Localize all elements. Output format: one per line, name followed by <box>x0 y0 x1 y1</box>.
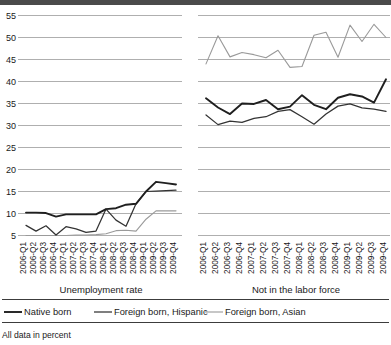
x-tick-label-2007-Q1: 2007-Q1 <box>59 242 68 274</box>
y-tick-label-50: 50 <box>6 33 16 43</box>
x-tick-label-2007-Q3: 2007-Q3 <box>79 242 88 274</box>
x-tick-label-2008-Q3: 2008-Q3 <box>319 242 328 274</box>
legend-label-foreign-born-asian: Foreign born, Asian <box>225 307 306 317</box>
y-tick-label-45: 45 <box>6 55 16 65</box>
x-tick-label-2006-Q3: 2006-Q3 <box>39 242 48 274</box>
x-tick-label-2006-Q2: 2006-Q2 <box>29 242 38 274</box>
chart-page: 510152025303540455055 2006-Q12006-Q22006… <box>0 0 391 345</box>
x-tick-label-2007-Q1: 2007-Q1 <box>247 242 256 274</box>
x-tick-label-2008-Q2: 2008-Q2 <box>307 242 316 274</box>
x-tick-label-2009-Q1: 2009-Q1 <box>139 242 148 274</box>
x-tick-label-2009-Q4: 2009-Q4 <box>379 242 388 274</box>
y-tick-label-20: 20 <box>6 165 16 175</box>
x-tick-label-2008-Q3: 2008-Q3 <box>119 242 128 274</box>
x-tick-label-2007-Q2: 2007-Q2 <box>259 242 268 274</box>
series-line-foreign-born-asian <box>206 24 386 67</box>
x-tick-label-2008-Q4: 2008-Q4 <box>331 242 340 274</box>
x-tick-label-2007-Q2: 2007-Q2 <box>69 242 78 274</box>
x-axis-labels-right: 2006-Q12006-Q22006-Q32006-Q42007-Q12007-… <box>199 242 388 274</box>
x-tick-label-2008-Q2: 2008-Q2 <box>109 242 118 274</box>
legend-label-foreign-born-hispanic: Foreign born, Hispanic <box>114 307 208 317</box>
x-tick-label-2006-Q2: 2006-Q2 <box>211 242 220 274</box>
y-tick-label-10: 10 <box>6 209 16 219</box>
series-lines-left-panel <box>26 182 176 236</box>
x-tick-label-2007-Q4: 2007-Q4 <box>89 242 98 274</box>
x-tick-label-2009-Q3: 2009-Q3 <box>159 242 168 274</box>
x-tick-label-2007-Q4: 2007-Q4 <box>283 242 292 274</box>
y-tick-label-30: 30 <box>6 121 16 131</box>
y-tick-label-55: 55 <box>6 11 16 21</box>
x-tick-label-2008-Q1: 2008-Q1 <box>295 242 304 274</box>
x-tick-label-2006-Q3: 2006-Q3 <box>223 242 232 274</box>
x-tick-label-2008-Q1: 2008-Q1 <box>99 242 108 274</box>
dual-panel-line-chart: 510152025303540455055 2006-Q12006-Q22006… <box>0 0 391 345</box>
legend: Native bornForeign born, HispanicForeign… <box>4 307 306 317</box>
y-tick-label-5: 5 <box>11 231 16 241</box>
x-tick-label-2006-Q4: 2006-Q4 <box>235 242 244 274</box>
x-tick-label-2009-Q3: 2009-Q3 <box>367 242 376 274</box>
x-tick-label-2009-Q2: 2009-Q2 <box>355 242 364 274</box>
x-tick-label-2006-Q4: 2006-Q4 <box>49 242 58 274</box>
y-tick-label-15: 15 <box>6 187 16 197</box>
legend-label-native-born: Native born <box>24 307 72 317</box>
y-tick-label-35: 35 <box>6 99 16 109</box>
x-tick-label-2006-Q1: 2006-Q1 <box>19 242 28 274</box>
y-tick-label-40: 40 <box>6 77 16 87</box>
footer-note-text: All data in percent <box>2 330 71 340</box>
panel-title-not-in-the-labor-force: Not in the labor force <box>252 284 340 295</box>
x-tick-label-2009-Q2: 2009-Q2 <box>149 242 158 274</box>
x-tick-label-2006-Q1: 2006-Q1 <box>199 242 208 274</box>
y-axis-labels: 510152025303540455055 <box>6 11 16 241</box>
panel-title-unemployment-rate: Unemployment rate <box>60 284 143 295</box>
x-axis-labels-left: 2006-Q12006-Q22006-Q32006-Q42007-Q12007-… <box>19 242 178 274</box>
x-tick-label-2009-Q4: 2009-Q4 <box>169 242 178 274</box>
series-line-native-born <box>26 182 176 217</box>
panel-titles: Unemployment rateNot in the labor force <box>60 284 341 295</box>
x-tick-label-2007-Q3: 2007-Q3 <box>271 242 280 274</box>
footer-note: All data in percent <box>2 330 71 340</box>
series-line-foreign-born-hispanic <box>206 104 386 125</box>
x-tick-label-2009-Q1: 2009-Q1 <box>343 242 352 274</box>
x-tick-label-2008-Q4: 2008-Q4 <box>129 242 138 274</box>
series-lines-right-panel <box>206 24 386 124</box>
series-line-native-born <box>206 79 386 114</box>
y-tick-label-25: 25 <box>6 143 16 153</box>
